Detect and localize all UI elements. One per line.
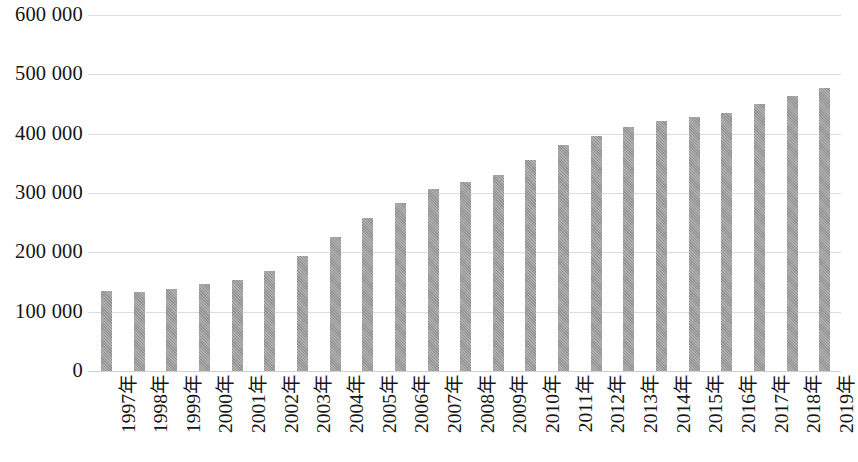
bar: [232, 280, 243, 371]
bar: [623, 127, 634, 371]
bar: [101, 291, 112, 371]
x-tick-label: 2013年: [640, 374, 662, 460]
bar: [689, 117, 700, 371]
bar: [819, 88, 830, 371]
bar: [591, 136, 602, 371]
bar: [558, 145, 569, 371]
x-tick-label: 2015年: [705, 374, 727, 460]
y-tick-label: 600 000: [15, 4, 83, 25]
gridline: [88, 15, 841, 16]
x-tick-label: 2000年: [215, 374, 237, 460]
gridline: [88, 74, 841, 75]
y-tick-label: 400 000: [15, 123, 83, 144]
bar: [754, 104, 765, 371]
x-axis-labels: 1997年1998年1999年2000年2001年2002年2003年2004年…: [88, 374, 841, 462]
bar: [199, 284, 210, 371]
x-tick-label: 2002年: [281, 374, 303, 460]
bar: [134, 292, 145, 371]
x-tick-label: 2005年: [379, 374, 401, 460]
x-tick-label: 2006年: [411, 374, 433, 460]
x-tick-label: 1998年: [150, 374, 172, 460]
bar: [787, 96, 798, 371]
bar: [395, 203, 406, 371]
bar: [428, 189, 439, 371]
x-tick-label: 2014年: [673, 374, 695, 460]
x-tick-label: 2003年: [313, 374, 335, 460]
x-tick-label: 2001年: [248, 374, 270, 460]
x-tick-label: 2016年: [738, 374, 760, 460]
y-tick-label: 500 000: [15, 63, 83, 84]
x-tick-label: 2009年: [509, 374, 531, 460]
y-tick-label: 100 000: [15, 301, 83, 322]
bar: [297, 256, 308, 371]
bar: [166, 289, 177, 371]
x-tick-label: 2004年: [346, 374, 368, 460]
x-tick-label: 2017年: [771, 374, 793, 460]
bar: [460, 182, 471, 371]
x-tick-label: 1999年: [183, 374, 205, 460]
x-tick-label: 2008年: [477, 374, 499, 460]
x-tick-label: 2018年: [803, 374, 825, 460]
gridline: [88, 371, 841, 372]
x-tick-label: 2019年: [836, 374, 858, 460]
plot-area: [88, 15, 841, 371]
y-tick-label: 300 000: [15, 182, 83, 203]
x-tick-label: 2010年: [542, 374, 564, 460]
y-tick-label: 0: [73, 360, 83, 381]
bar: [656, 121, 667, 371]
bar: [264, 271, 275, 371]
y-tick-label: 200 000: [15, 241, 83, 262]
x-tick-label: 2011年: [575, 374, 597, 460]
x-tick-label: 1997年: [118, 374, 140, 460]
bar: [493, 175, 504, 371]
bar: [525, 160, 536, 371]
x-tick-label: 2007年: [444, 374, 466, 460]
bar: [330, 237, 341, 371]
x-tick-label: 2012年: [607, 374, 629, 460]
bar: [362, 218, 373, 371]
bar: [721, 113, 732, 371]
